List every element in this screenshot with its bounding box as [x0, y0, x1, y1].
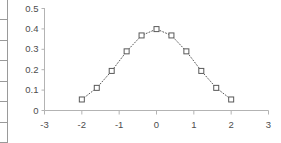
x-axis-tick-label: -3 — [30, 120, 60, 130]
y-axis-tick-label: 0.4 — [8, 24, 39, 34]
data-point-marker[interactable] — [154, 27, 159, 32]
data-point-marker[interactable] — [169, 33, 174, 38]
y-axis-tick-label: 0.5 — [8, 4, 39, 14]
y-axis-tick-label: 0 — [8, 106, 39, 116]
data-point-marker[interactable] — [109, 68, 114, 73]
y-axis-tick-label: 0.1 — [8, 85, 39, 95]
data-point-marker[interactable] — [139, 33, 144, 38]
chart-screenshot: 00.10.20.30.40.5 -3-2-10123 — [0, 0, 280, 143]
y-axis-tick-label: 0.2 — [8, 65, 39, 75]
y-axis-tick-label: 0.3 — [8, 44, 39, 54]
x-axis-tick-label: 1 — [179, 120, 209, 130]
x-axis-tick-label: 0 — [142, 120, 172, 130]
data-point-marker[interactable] — [184, 49, 189, 54]
data-point-marker[interactable] — [199, 68, 204, 73]
x-axis-tick-label: 3 — [254, 120, 281, 130]
x-axis-tick-label: 2 — [216, 120, 246, 130]
series-line — [82, 29, 231, 99]
normal-distribution-chart: 00.10.20.30.40.5 -3-2-10123 — [0, 0, 280, 143]
data-point-marker[interactable] — [79, 97, 84, 102]
data-point-marker[interactable] — [214, 85, 219, 90]
data-point-marker[interactable] — [94, 85, 99, 90]
x-axis-tick-label: -2 — [67, 120, 97, 130]
data-point-marker[interactable] — [229, 97, 234, 102]
x-axis-tick-label: -1 — [104, 120, 134, 130]
data-point-marker[interactable] — [124, 49, 129, 54]
